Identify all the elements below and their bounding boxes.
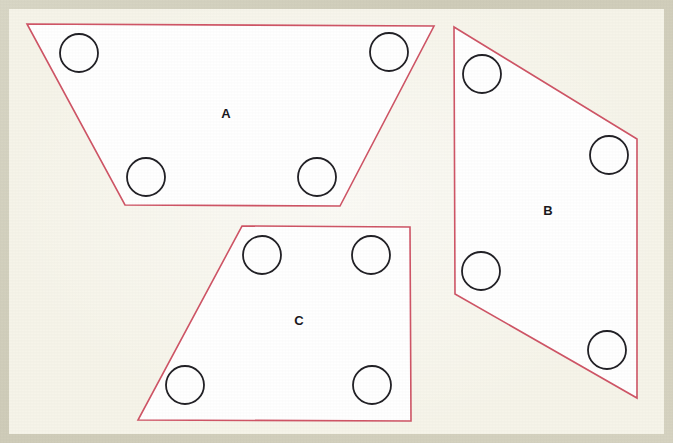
hole-circle bbox=[298, 158, 336, 196]
shape-c[interactable]: C bbox=[138, 226, 411, 421]
figure-page: ABC bbox=[0, 0, 673, 443]
shape-b[interactable]: B bbox=[454, 27, 637, 398]
hole-circle bbox=[463, 55, 501, 93]
hole-circle bbox=[127, 158, 165, 196]
hole-circle bbox=[60, 34, 98, 72]
hole-circle bbox=[243, 236, 281, 274]
shape-label-c: C bbox=[294, 313, 304, 328]
hole-circle bbox=[462, 252, 500, 290]
shapes-group: ABC bbox=[27, 24, 637, 421]
hole-circle bbox=[352, 236, 390, 274]
hole-circle bbox=[166, 366, 204, 404]
hole-circle bbox=[590, 136, 628, 174]
hole-circle bbox=[588, 331, 626, 369]
hole-circle bbox=[353, 366, 391, 404]
shape-label-a: A bbox=[221, 106, 231, 121]
shapes-diagram: ABC bbox=[0, 0, 673, 443]
shape-label-b: B bbox=[543, 203, 552, 218]
shape-a[interactable]: A bbox=[27, 24, 434, 206]
hole-circle bbox=[370, 33, 408, 71]
